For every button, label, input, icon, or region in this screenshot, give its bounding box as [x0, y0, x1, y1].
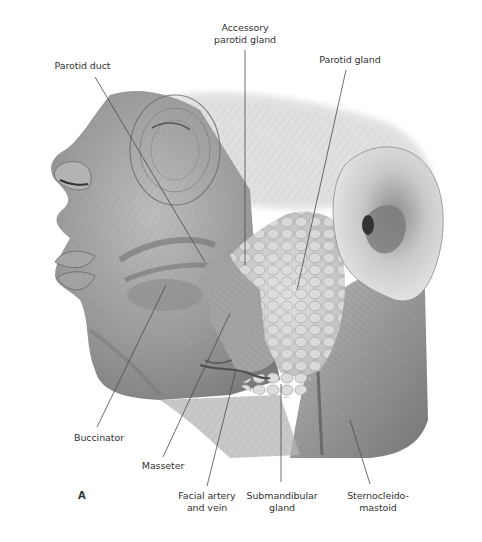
label-parotid-gland: Parotid gland	[310, 54, 390, 66]
label-sternocleidomastoid: Sternocleido- mastoid	[340, 490, 416, 514]
label-buccinator: Buccinator	[68, 432, 130, 444]
anatomy-illustration	[0, 0, 482, 542]
label-masseter: Masseter	[132, 460, 194, 472]
panel-letter: A	[78, 490, 86, 501]
label-submandibular-gland: Submandibular gland	[242, 490, 322, 514]
label-facial-artery-and-vein: Facial artery and vein	[172, 490, 242, 514]
anatomy-figure: Parotid duct Accessory parotid gland Par…	[0, 0, 482, 542]
label-accessory-parotid-gland: Accessory parotid gland	[205, 22, 285, 46]
suprahyoid-region	[160, 395, 300, 458]
label-parotid-duct: Parotid duct	[45, 60, 120, 72]
ear	[333, 147, 443, 301]
